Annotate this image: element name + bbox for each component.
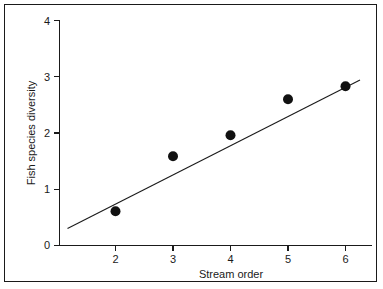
data-point <box>226 130 236 140</box>
trend-line <box>68 80 361 229</box>
y-axis-title: Fish species diversity <box>25 80 37 185</box>
chart-figure: 0 1 2 3 4 2 3 4 5 6 Stream order Fish sp… <box>0 0 383 289</box>
data-point <box>168 151 178 161</box>
x-tick-label-4: 4 <box>227 253 233 265</box>
x-tick-label-2: 2 <box>112 253 118 265</box>
data-point <box>111 206 121 216</box>
x-tick-label-6: 6 <box>342 253 348 265</box>
data-point <box>283 94 293 104</box>
y-tick-label-0: 0 <box>44 239 50 251</box>
x-tick-label-5: 5 <box>285 253 291 265</box>
scatter-plot: 0 1 2 3 4 2 3 4 5 6 Stream order Fish sp… <box>0 0 383 289</box>
y-tick-label-4: 4 <box>44 15 50 27</box>
y-tick-label-1: 1 <box>44 183 50 195</box>
data-point <box>341 81 351 91</box>
x-axis-title: Stream order <box>199 268 264 280</box>
y-tick-label-3: 3 <box>44 71 50 83</box>
x-tick-label-3: 3 <box>170 253 176 265</box>
y-tick-label-2: 2 <box>44 127 50 139</box>
